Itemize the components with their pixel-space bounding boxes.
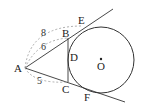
measure-ae: 8 (41, 27, 46, 38)
label-e: E (78, 14, 85, 26)
diagram-canvas: 8 6 5 A B E D C F O (0, 0, 148, 108)
label-f: F (84, 91, 90, 103)
label-d: D (70, 51, 78, 63)
label-o: O (97, 60, 105, 72)
label-b: B (62, 27, 69, 39)
label-a: A (14, 62, 22, 74)
measure-ac: 5 (37, 75, 42, 86)
measure-ab: 6 (41, 41, 46, 52)
geometry-diagram: 8 6 5 A B E D C F O (0, 0, 148, 108)
label-c: C (62, 83, 69, 95)
